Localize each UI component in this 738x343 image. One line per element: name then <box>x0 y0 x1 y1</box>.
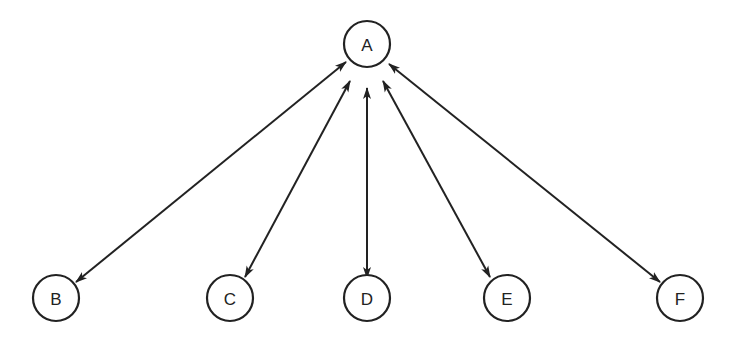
bidirectional-arrow-icon <box>383 81 490 277</box>
node-label: A <box>361 36 373 55</box>
edge-a-b <box>76 62 346 282</box>
bidirectional-arrow-icon <box>76 62 346 282</box>
edge-a-c <box>245 81 350 277</box>
node-e: E <box>484 275 530 321</box>
node-f: F <box>657 275 703 321</box>
star-network-diagram: ABCDEF <box>0 0 738 343</box>
node-d: D <box>344 275 390 321</box>
node-c: C <box>207 275 253 321</box>
node-label: D <box>361 290 373 309</box>
node-label: C <box>224 290 236 309</box>
edge-a-e <box>383 81 490 277</box>
edges-group <box>76 62 660 282</box>
node-label: F <box>675 290 685 309</box>
bidirectional-arrow-icon <box>245 81 350 277</box>
edge-a-f <box>389 64 660 282</box>
node-label: B <box>50 290 61 309</box>
bidirectional-arrow-icon <box>389 64 660 282</box>
node-a: A <box>344 21 390 67</box>
node-b: B <box>33 275 79 321</box>
node-label: E <box>501 290 512 309</box>
